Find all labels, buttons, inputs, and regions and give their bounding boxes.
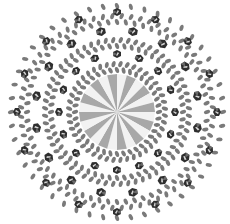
bead <box>176 132 182 136</box>
bead <box>141 23 145 30</box>
bead <box>51 88 57 92</box>
bead <box>205 55 212 62</box>
bead <box>18 95 25 101</box>
bead <box>72 103 79 108</box>
bead <box>50 45 57 51</box>
bead <box>42 98 49 104</box>
bead <box>100 3 106 10</box>
bead <box>46 83 53 90</box>
bead <box>118 36 124 43</box>
bead <box>151 129 158 134</box>
bead <box>178 45 184 52</box>
bead <box>72 188 77 195</box>
crystal-bead <box>58 129 68 139</box>
bead <box>125 155 130 162</box>
bead <box>178 77 185 82</box>
bead <box>122 43 127 50</box>
bead <box>64 183 69 190</box>
bead <box>123 198 129 205</box>
crystal-bead <box>192 123 203 134</box>
crystal-bead <box>55 108 63 116</box>
bead <box>88 176 95 183</box>
bead <box>120 150 126 157</box>
bead <box>27 135 34 142</box>
bead <box>202 91 209 98</box>
bead <box>149 26 153 33</box>
bead <box>184 45 191 51</box>
bead <box>132 39 139 46</box>
bead <box>114 198 120 205</box>
bead <box>208 123 215 129</box>
crystal-bead <box>165 129 175 139</box>
mandala-image <box>0 0 230 224</box>
bead <box>170 32 177 39</box>
bead <box>126 180 131 187</box>
bead <box>163 183 170 190</box>
bead <box>73 122 80 129</box>
bead <box>92 46 99 53</box>
bead <box>125 37 131 44</box>
bead <box>30 143 37 150</box>
bead <box>155 116 162 121</box>
bead <box>193 66 200 73</box>
bead <box>56 186 63 193</box>
bead <box>185 105 192 111</box>
bead <box>48 116 55 122</box>
bead <box>178 94 185 101</box>
bead <box>219 123 226 128</box>
bead <box>50 192 56 199</box>
bead <box>181 134 188 141</box>
bead <box>137 15 144 22</box>
bead <box>107 174 112 181</box>
bead <box>139 41 146 48</box>
bead <box>137 46 141 52</box>
crystal-bead <box>128 187 139 198</box>
bead <box>160 119 167 126</box>
bead <box>135 171 142 178</box>
bead <box>178 193 185 200</box>
bead <box>128 69 132 76</box>
bead <box>92 66 97 73</box>
bead <box>65 106 72 112</box>
bead <box>185 113 192 119</box>
crystal-bead <box>43 151 55 163</box>
bead <box>96 20 103 27</box>
bead <box>114 66 120 73</box>
bead <box>203 118 210 123</box>
bead <box>25 126 32 133</box>
crystal-bead <box>171 108 179 116</box>
bead <box>178 124 185 129</box>
bead <box>69 127 75 131</box>
bead <box>66 98 73 105</box>
bead <box>23 142 29 146</box>
bead <box>164 191 169 198</box>
bead <box>177 173 184 179</box>
bead <box>118 180 124 187</box>
bead <box>188 159 195 164</box>
crystal-bead <box>90 53 100 63</box>
bead <box>205 163 212 168</box>
bead <box>179 109 186 115</box>
bead <box>147 199 151 205</box>
bead <box>132 20 137 27</box>
bead <box>106 198 111 205</box>
crystal-bead <box>192 91 203 102</box>
bead <box>11 82 18 86</box>
bead <box>183 51 190 58</box>
bead <box>90 201 97 208</box>
bead <box>140 194 147 201</box>
bead <box>121 67 126 74</box>
bead <box>176 87 183 94</box>
bead <box>183 166 190 172</box>
bead <box>141 211 148 218</box>
bead <box>110 180 116 187</box>
bead <box>161 106 168 111</box>
bead <box>108 150 113 157</box>
bead <box>87 211 91 218</box>
bead <box>81 192 85 199</box>
bead <box>216 81 223 88</box>
bead <box>103 155 110 162</box>
bead <box>106 43 112 50</box>
crystal-bead <box>96 187 107 198</box>
bead <box>157 29 162 36</box>
